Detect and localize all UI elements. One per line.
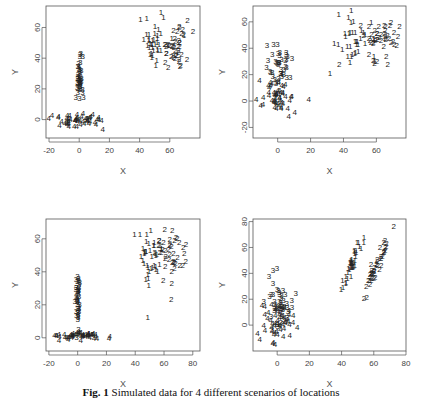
data-point-cluster-4: 4 [92,334,97,343]
data-point-cluster-4: 4 [88,117,93,126]
data-point-cluster-3: 3 [81,93,86,102]
data-point-cluster-4: 4 [255,329,260,338]
x-tick-label: 20 [305,359,314,368]
x-tick-label: 60 [369,359,378,368]
data-point-cluster-1: 1 [148,226,153,235]
data-point-cluster-4: 4 [278,313,283,322]
data-point-cluster-1: 1 [155,34,160,43]
data-point-cluster-4: 4 [101,125,106,134]
data-point-cluster-4: 4 [295,323,300,332]
x-tick-label: 80 [402,359,411,368]
data-point-cluster-4: 4 [268,316,273,325]
data-point-cluster-2: 2 [375,261,380,270]
data-point-cluster-4: 4 [287,306,292,315]
data-point-cluster-4: 4 [276,78,281,87]
data-point-cluster-2: 2 [162,40,167,49]
data-point-cluster-2: 2 [384,52,389,61]
x-axis-label: X [326,166,332,176]
y-tick-label: 60 [33,22,42,31]
x-tick-label: -20 [43,359,55,368]
x-tick-label: 20 [105,146,114,155]
y-tick-label: 0 [33,117,42,122]
data-point-cluster-1: 1 [153,22,158,31]
data-point-cluster-3: 3 [277,48,282,57]
data-point-cluster-2: 2 [337,60,342,69]
data-point-cluster-2: 2 [382,29,387,38]
data-point-cluster-2: 2 [184,240,189,249]
data-point-cluster-2: 2 [376,22,381,31]
figure-caption: Fig. 1 Simulated data for 4 different sc… [0,386,422,398]
data-point-cluster-1: 1 [351,17,356,26]
x-tick-label: 40 [135,146,144,155]
x-tick-label: 0 [275,146,280,155]
data-point-cluster-2: 2 [364,293,369,302]
x-tick-label: 0 [75,359,80,368]
data-point-cluster-1: 1 [145,14,150,23]
data-point-cluster-2: 2 [180,261,185,270]
data-point-cluster-4: 4 [286,112,291,121]
data-point-cluster-1: 1 [352,256,357,265]
y-axis-label: Y [217,69,227,75]
data-point-cluster-2: 2 [362,31,367,40]
data-point-cluster-4: 4 [271,339,276,348]
data-point-cluster-1: 1 [148,39,153,48]
data-point-cluster-4: 4 [275,330,280,339]
data-point-cluster-1: 1 [337,10,342,19]
data-point-cluster-1: 1 [149,49,154,58]
data-point-cluster-3: 3 [275,264,280,273]
data-point-cluster-3: 3 [294,289,299,298]
data-point-cluster-3: 3 [77,94,82,103]
data-point-cluster-1: 1 [138,15,143,24]
y-tick-label: 0 [240,322,249,327]
data-point-cluster-4: 4 [280,303,285,312]
data-point-cluster-4: 4 [273,98,278,107]
data-point-cluster-4: 4 [286,104,291,113]
data-point-cluster-2: 2 [177,38,182,47]
data-point-cluster-1: 1 [344,278,349,287]
data-point-cluster-4: 4 [278,321,283,330]
x-tick-label: 20 [306,146,315,155]
data-point-cluster-1: 1 [142,247,147,256]
x-tick-label: -20 [43,146,55,155]
x-axis-label: X [120,166,126,176]
data-point-cluster-2: 2 [358,21,363,30]
data-point-cluster-2: 2 [178,61,183,70]
data-point-cluster-4: 4 [254,95,259,104]
data-point-cluster-3: 3 [73,297,78,306]
data-point-cluster-1: 1 [145,261,150,270]
x-tick-label: 40 [131,359,140,368]
scatter-panel-top-right: 0204060-200204060XY111111111111111111111… [217,6,406,176]
y-tick-label: 60 [33,234,42,243]
scatter-panel-bottom-right: 020406080020406080XY11111111111111111111… [217,217,411,389]
data-point-cluster-2: 2 [164,49,169,58]
x-tick-label: 60 [165,146,174,155]
data-point-cluster-2: 2 [386,60,391,69]
data-point-cluster-3: 3 [271,40,276,49]
data-point-cluster-4: 4 [269,300,274,309]
data-point-cluster-4: 4 [261,100,266,109]
data-point-cluster-2: 2 [163,225,168,234]
x-tick-label: 60 [372,146,381,155]
data-point-cluster-4: 4 [267,83,272,92]
data-point-cluster-4: 4 [291,311,296,320]
y-tick-label: 20 [240,70,249,79]
data-point-cluster-1: 1 [332,39,337,48]
data-point-cluster-2: 2 [170,279,175,288]
x-tick-label: 80 [188,359,197,368]
y-tick-label: 0 [33,335,42,340]
y-tick-label: 40 [240,268,249,277]
y-tick-label: 80 [240,217,249,226]
data-point-cluster-2: 2 [384,242,389,251]
data-point-cluster-4: 4 [307,95,312,104]
data-point-cluster-2: 2 [169,295,174,304]
y-tick-label: 60 [240,17,249,26]
data-point-cluster-4: 4 [50,111,55,120]
data-point-cluster-2: 2 [161,276,166,285]
x-tick-label: 0 [77,146,82,155]
x-tick-label: 60 [160,359,169,368]
data-point-cluster-4: 4 [75,328,80,337]
data-point-cluster-2: 2 [191,27,196,36]
data-point-cluster-4: 4 [78,116,83,125]
data-point-cluster-2: 2 [373,36,378,45]
data-point-cluster-1: 1 [145,313,150,322]
